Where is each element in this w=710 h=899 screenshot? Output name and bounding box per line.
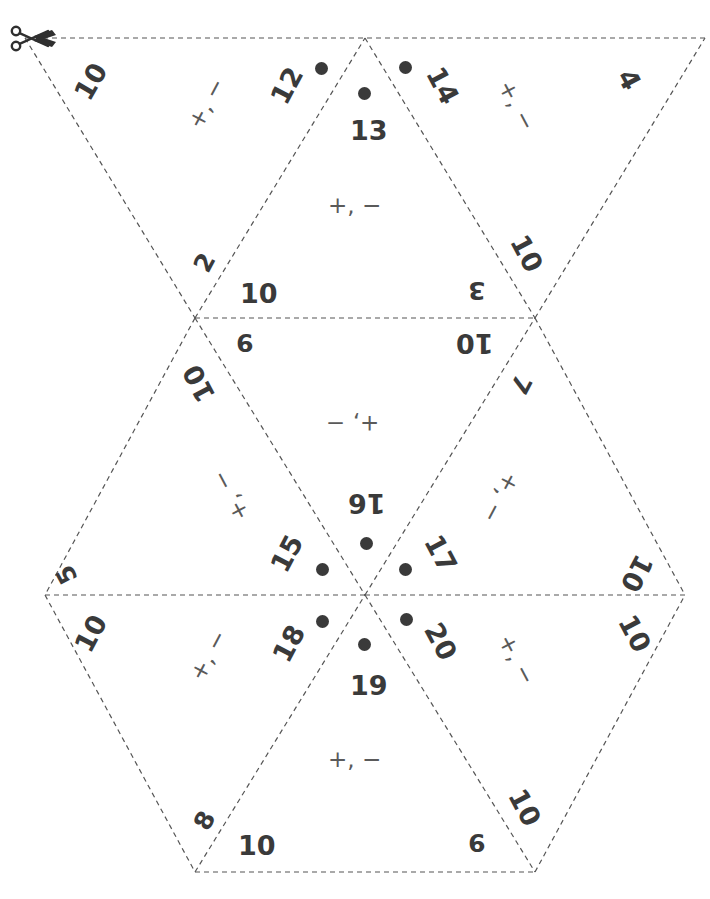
edge-label-bottom-10: 10 bbox=[238, 832, 276, 859]
operators-bottom-center: +, − bbox=[328, 748, 381, 771]
operators-top-center: +, − bbox=[328, 194, 381, 217]
edge-label-mid-right-10: 10 bbox=[456, 330, 494, 357]
fold-line bbox=[535, 318, 685, 595]
edge-label-bottom-9: 9 bbox=[468, 830, 485, 855]
edge-label-9: 9 bbox=[236, 330, 253, 355]
dot-20 bbox=[400, 613, 413, 626]
dot-15 bbox=[316, 563, 329, 576]
fold-line bbox=[45, 318, 195, 595]
fold-line bbox=[535, 595, 685, 872]
dot-13 bbox=[358, 87, 371, 100]
operators-middle-center: +, − bbox=[326, 412, 379, 435]
number-19: 19 bbox=[350, 672, 388, 699]
fold-line bbox=[45, 595, 195, 872]
dot-12 bbox=[315, 62, 328, 75]
dot-17 bbox=[399, 563, 412, 576]
scissors-icon bbox=[8, 22, 64, 62]
dot-18 bbox=[316, 615, 329, 628]
number-16: 16 bbox=[348, 490, 386, 517]
edge-label-top-mid-10: 10 bbox=[240, 280, 278, 307]
number-13: 13 bbox=[350, 117, 388, 144]
dot-14 bbox=[399, 61, 412, 74]
dot-16 bbox=[360, 537, 373, 550]
fold-line bbox=[25, 38, 195, 318]
flexagon-template-sheet: 10 +, − 12 13 14 +, − 4 +, − 2 10 3 10 9… bbox=[0, 0, 710, 899]
edge-label-3: 3 bbox=[468, 278, 485, 303]
dot-19 bbox=[358, 638, 371, 651]
